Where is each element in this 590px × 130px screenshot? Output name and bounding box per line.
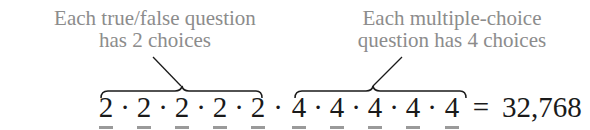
left-leader-line <box>153 57 181 86</box>
factor-2: 2 <box>210 92 230 122</box>
multiply-dot: · <box>347 92 365 122</box>
multiply-dot: · <box>269 92 287 122</box>
factor-2: 2 <box>172 92 192 122</box>
blank-underline <box>368 126 382 129</box>
factor-4: 4 <box>442 92 462 122</box>
multiply-dot: · <box>230 92 248 122</box>
equation: 2 · 2 · 2 · 2 · 2 · 4 · 4 · 4 · 4 · 4 = … <box>0 92 590 130</box>
multiply-dot: · <box>192 92 210 122</box>
multiply-dot: · <box>309 92 327 122</box>
multiply-dot: · <box>154 92 172 122</box>
blank-underline <box>445 126 459 129</box>
result-value: 32,768 <box>502 92 582 122</box>
blank-underline <box>406 126 420 129</box>
factor-4: 4 <box>403 92 423 122</box>
blank-underline <box>292 126 306 129</box>
factor-2: 2 <box>96 92 116 122</box>
multiply-dot: · <box>385 92 403 122</box>
blank-underline <box>251 126 265 129</box>
blank-underline <box>175 126 189 129</box>
blank-underline <box>330 126 344 129</box>
blank-underline <box>99 126 113 129</box>
equals-sign: = <box>469 92 493 122</box>
factor-4: 4 <box>327 92 347 122</box>
right-leader-line <box>373 57 402 86</box>
blank-underline <box>137 126 151 129</box>
blank-underline <box>213 126 227 129</box>
multiply-dot: · <box>423 92 441 122</box>
factor-2: 2 <box>134 92 154 122</box>
factor-4: 4 <box>365 92 385 122</box>
factor-4: 4 <box>289 92 309 122</box>
factor-2: 2 <box>248 92 268 122</box>
multiply-dot: · <box>116 92 134 122</box>
